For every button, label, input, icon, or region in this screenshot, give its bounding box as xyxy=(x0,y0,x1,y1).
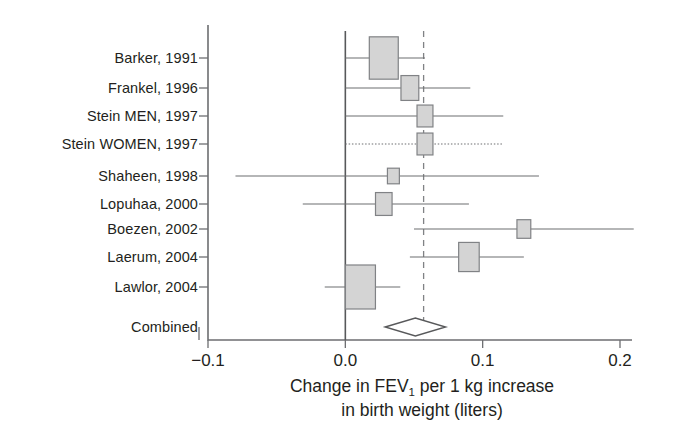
axis-title-line-1: Change in FEV1 per 1 kg increase xyxy=(290,376,554,398)
study-label: Frankel, 1996 xyxy=(108,80,198,96)
effect-estimate-box xyxy=(369,37,398,79)
plot-background xyxy=(0,0,678,440)
axis-title-text-pre: Change in FEV xyxy=(290,376,409,396)
effect-estimate-box xyxy=(387,168,399,184)
effect-estimate-box xyxy=(345,265,375,309)
effect-estimate-box xyxy=(417,133,433,155)
effect-estimate-box xyxy=(517,220,531,239)
study-label: Lawlor, 2004 xyxy=(115,279,198,295)
effect-estimate-box xyxy=(417,105,433,127)
effect-estimate-box xyxy=(401,76,419,101)
study-label: Stein WOMEN, 1997 xyxy=(62,136,198,152)
x-tick-label: 0.0 xyxy=(334,351,358,370)
axis-title-text-post: per 1 kg increase xyxy=(415,376,554,396)
study-label: Barker, 1991 xyxy=(115,50,198,66)
effect-estimate-box xyxy=(376,193,393,216)
x-tick-label: 0.1 xyxy=(471,351,495,370)
forest-plot-canvas: Barker, 1991Frankel, 1996Stein MEN, 1997… xyxy=(0,0,678,440)
axis-title-line-2: in birth weight (liters) xyxy=(341,400,502,420)
study-label: Lopuhaa, 2000 xyxy=(100,196,198,212)
study-label: Stein MEN, 1997 xyxy=(87,108,198,124)
x-tick-label: −0.1 xyxy=(191,351,225,370)
x-tick-label: 0.2 xyxy=(608,351,632,370)
combined-label: Combined xyxy=(131,319,198,335)
effect-estimate-box xyxy=(459,242,480,271)
forest-plot-figure: Barker, 1991Frankel, 1996Stein MEN, 1997… xyxy=(0,0,678,440)
study-label: Boezen, 2002 xyxy=(107,221,198,237)
study-label: Laerum, 2004 xyxy=(107,249,198,265)
study-label: Shaheen, 1998 xyxy=(98,168,198,184)
